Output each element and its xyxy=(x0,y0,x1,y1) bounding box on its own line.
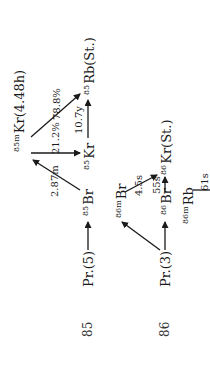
nuclide-br86m: 86mBr xyxy=(115,183,128,218)
precursor-86: Pr.(3) xyxy=(159,251,172,287)
decay-arrows xyxy=(0,0,210,374)
decay-chain-diagram: 85 86 Pr.(5) Pr.(3) 85Br 85mKr(4.48h) 85… xyxy=(0,0,210,374)
halflife-rb86m: 61s xyxy=(200,173,210,191)
arrow-pr3-to-br86m xyxy=(122,222,160,250)
halflife-br86m: 4.5s xyxy=(134,175,144,196)
branch-kr85m-to-rb85: 78.8% xyxy=(52,88,62,120)
nuclide-rb85: 85Rb(St.) xyxy=(83,37,96,95)
branch-kr85m-to-kr85: 21.2% xyxy=(51,122,61,154)
nuclide-kr85: 85Kr xyxy=(83,143,96,170)
nuclide-kr86: 86Kr(St.) xyxy=(160,119,173,175)
mass-number-85: 85 xyxy=(82,322,94,337)
nuclide-br85: 85Br xyxy=(82,189,95,216)
mass-number-86: 86 xyxy=(159,322,171,337)
halflife-br85: 2.87m xyxy=(50,165,60,197)
precursor-85: Pr.(5) xyxy=(82,251,95,287)
halflife-kr85: 10.7y xyxy=(74,106,84,134)
nuclide-rb86m: 86mRb xyxy=(182,187,195,224)
halflife-br86: 55s xyxy=(152,176,162,194)
nuclide-kr85m: 85mKr(4.48h) xyxy=(13,70,26,152)
